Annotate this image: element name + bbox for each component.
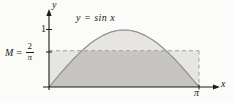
- mean-value-prefix: M =: [5, 47, 23, 58]
- sine-mean-value-figure: y x y = sin x 1 π M = 2 π: [0, 0, 234, 103]
- mean-value-fraction: 2 π: [26, 42, 35, 62]
- y-axis-arrow-icon: [46, 9, 51, 16]
- fraction-denominator: π: [27, 53, 34, 62]
- y-axis-label: y: [52, 0, 56, 10]
- x-axis-label: x: [221, 79, 225, 89]
- x-tick-label-pi: π: [194, 88, 199, 98]
- mean-value-label: M = 2 π: [5, 39, 34, 65]
- curve-equation-label: y = sin x: [76, 13, 115, 23]
- x-axis-arrow-icon: [213, 84, 220, 89]
- y-tick-label-1: 1: [38, 24, 46, 34]
- fraction-numerator: 2: [26, 42, 35, 51]
